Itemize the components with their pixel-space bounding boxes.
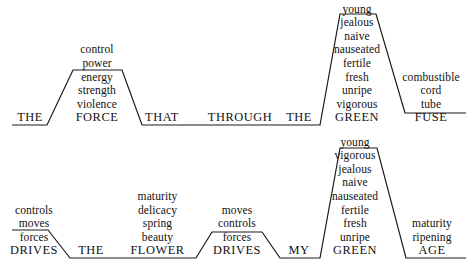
word-stack-drives-2: moves controls forces DRIVES [201, 204, 273, 258]
slot-head-word: DRIVES [0, 244, 68, 258]
slot-alt-word: nauseated [314, 190, 396, 204]
slot-alt-word: control [62, 43, 132, 57]
word-stack-fuse: combustible cord tube FUSE [390, 71, 472, 125]
slot-alt-word: delicacy [119, 204, 196, 218]
slot-alt-word: controls [0, 204, 68, 218]
slot-alt-word: forces [201, 231, 273, 245]
slot-alt-word: moves [201, 204, 273, 218]
slot-alt-word: beauty [119, 231, 196, 245]
slot-alt-word: unripe [314, 231, 396, 245]
slot-head-word: THE [0, 111, 60, 125]
slot-alt-word: violence [62, 98, 132, 112]
slot-head-word: DRIVES [201, 244, 273, 258]
slot-head-word: GREEN [314, 244, 396, 258]
word-stack-flower: maturity delicacy spring beauty FLOWER [119, 190, 196, 258]
slot-alt-word: naive [316, 30, 398, 44]
slot-head-word: FORCE [62, 111, 132, 125]
slot-head-word: THAT [133, 111, 191, 125]
slot-alt-word: jealous [314, 163, 396, 177]
slot-alt-word: maturity [119, 190, 196, 204]
slot-alt-word: energy [62, 71, 132, 85]
slot-alt-word: power [62, 57, 132, 71]
word-stack-the-3: THE [64, 244, 118, 258]
word-stack-the-1: THE [0, 111, 60, 125]
slot-alt-word: cord [390, 84, 472, 98]
slot-head-word: GREEN [316, 111, 398, 125]
slot-alt-word: fertile [314, 204, 396, 218]
slot-alt-word: young [316, 3, 398, 17]
slot-head-word: FUSE [390, 111, 472, 125]
word-stack-through: THROUGH [201, 111, 279, 125]
slot-alt-word: fertile [316, 57, 398, 71]
slot-head-word: AGE [397, 244, 467, 258]
slot-alt-word: nauseated [316, 43, 398, 57]
slot-alt-word: young [314, 136, 396, 150]
slot-alt-word: vigorous [316, 98, 398, 112]
slot-alt-word: combustible [390, 71, 472, 85]
slot-alt-word: strength [62, 84, 132, 98]
slot-alt-word: moves [0, 217, 68, 231]
slot-alt-word: controls [201, 217, 273, 231]
slot-alt-word: jealous [316, 16, 398, 30]
slot-alt-word: tube [390, 98, 472, 112]
word-stack-age: maturity ripening AGE [397, 217, 467, 258]
slot-alt-word: maturity [397, 217, 467, 231]
word-stack-drives-1: controls moves forces DRIVES [0, 204, 68, 258]
slot-alt-word: vigorous [314, 149, 396, 163]
slot-alt-word: fresh [316, 71, 398, 85]
slot-alt-word: fresh [314, 217, 396, 231]
slot-head-word: THE [64, 244, 118, 258]
diagram-canvas: THE control power energy strength violen… [0, 0, 472, 273]
word-stack-that: THAT [133, 111, 191, 125]
word-stack-green-2: young vigorous jealous naive nauseated f… [314, 136, 396, 258]
word-stack-force: control power energy strength violence F… [62, 43, 132, 125]
word-stack-green-1: young jealous naive nauseated fertile fr… [316, 3, 398, 125]
slot-alt-word: ripening [397, 231, 467, 245]
slot-alt-word: unripe [316, 84, 398, 98]
slot-alt-word: spring [119, 217, 196, 231]
slot-alt-word: forces [0, 231, 68, 245]
slot-alt-word: naive [314, 176, 396, 190]
slot-head-word: THROUGH [201, 111, 279, 125]
slot-head-word: FLOWER [119, 244, 196, 258]
